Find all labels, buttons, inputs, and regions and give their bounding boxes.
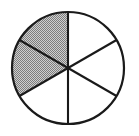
figure-canvas: [0, 0, 139, 136]
fraction-circle-diagram: [0, 0, 139, 136]
